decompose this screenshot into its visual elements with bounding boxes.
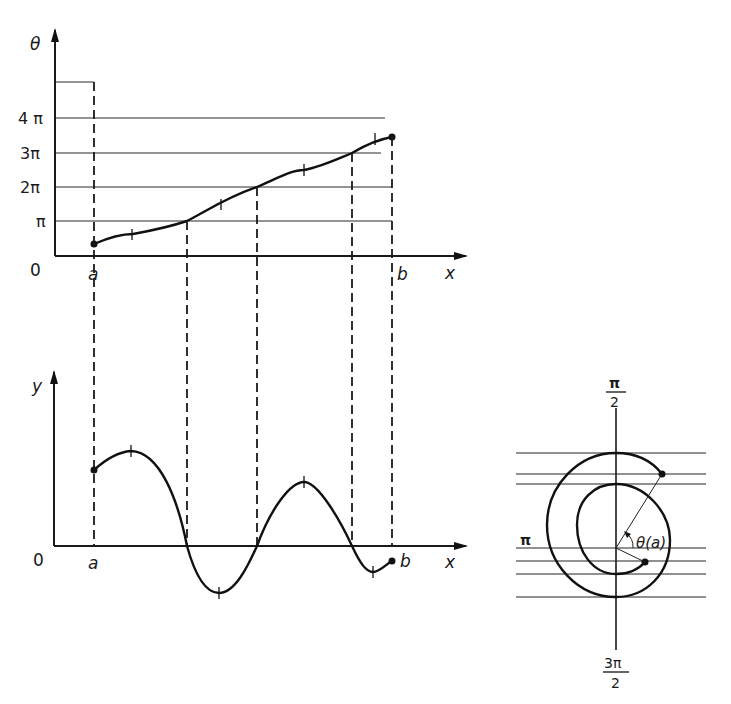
bottom-a-label: a	[88, 553, 98, 573]
bottom-label-denominator: 2	[611, 675, 620, 691]
spiral-curve	[547, 453, 670, 597]
y-curve	[94, 451, 392, 593]
y-end-point	[389, 558, 396, 565]
bottom-origin-label: 0	[33, 550, 44, 570]
y-axis-label: y	[31, 376, 43, 396]
bottom-b-label: b	[400, 551, 411, 571]
figure: 4 π 4π 3π 2π π θ 0 x a b y 0 a b x	[0, 0, 731, 704]
theta-axis-label: θ	[30, 34, 41, 54]
tick-pi-label: π	[36, 212, 46, 231]
tick-4pi: 4 π	[18, 109, 43, 128]
bottom-y-plot: y 0 a b x	[31, 372, 466, 599]
spiral-diagram: θ(a) π 2 π 3π 2	[516, 375, 706, 691]
top-theta-plot: 4 π 4π 3π 2π π θ 0 x a b	[18, 30, 466, 284]
top-b-label: b	[397, 264, 408, 284]
y-start-point	[91, 467, 98, 474]
dashed-connectors	[94, 82, 392, 546]
top-label-numerator: π	[609, 375, 620, 391]
bottom-label-numerator: 3π	[604, 655, 622, 671]
bottom-x-axis-label: x	[444, 552, 456, 572]
tick-3pi-label: 3π	[20, 144, 40, 163]
top-x-axis-label: x	[444, 263, 456, 283]
top-origin-label: 0	[30, 260, 41, 280]
top-label-denominator: 2	[610, 394, 619, 410]
angle-label: θ(a)	[636, 534, 666, 552]
diagram-svg: 4 π 4π 3π 2π π θ 0 x a b y 0 a b x	[0, 0, 731, 704]
tick-2pi-label: 2π	[20, 178, 40, 197]
left-pi-label: π	[520, 532, 531, 548]
